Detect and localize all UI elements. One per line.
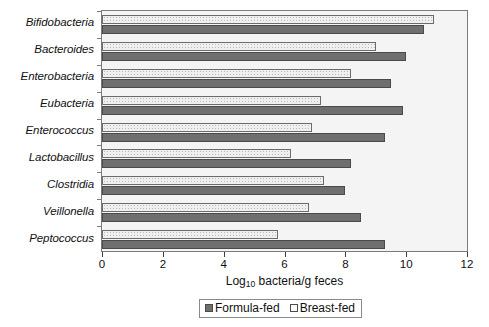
- category-label-bifidobacteria: Bifidobacteria: [0, 16, 94, 28]
- legend-item-breast-fed: Breast-fed: [290, 301, 355, 315]
- bar-formula-fed-bacteroides: [102, 52, 406, 61]
- legend-item-formula-fed: Formula-fed: [205, 301, 280, 315]
- x-tick: [285, 252, 286, 257]
- category-tick: [97, 145, 102, 146]
- category-axis: BifidobacteriaBacteroidesEnterobacteriaE…: [0, 10, 98, 252]
- bar-breast-fed-clostridia: [102, 176, 324, 185]
- legend-label-formula-fed: Formula-fed: [215, 301, 280, 315]
- category-label-enterobacteria: Enterobacteria: [0, 70, 94, 82]
- category-label-clostridia: Clostridia: [0, 178, 94, 190]
- x-tick: [163, 252, 164, 257]
- x-tick-label-4: 4: [209, 258, 239, 270]
- category-tick: [97, 38, 102, 39]
- category-label-bacteroides: Bacteroides: [0, 43, 94, 55]
- legend-label-breast-fed: Breast-fed: [300, 301, 355, 315]
- x-tick-label-0: 0: [87, 258, 117, 270]
- bar-breast-fed-bifidobacteria: [102, 15, 434, 24]
- x-tick-label-12: 12: [452, 258, 482, 270]
- bar-breast-fed-peptococcus: [102, 230, 278, 239]
- bar-formula-fed-eubacteria: [102, 106, 403, 115]
- bar-breast-fed-veillonella: [102, 203, 309, 212]
- x-tick: [102, 252, 103, 257]
- x-tick: [345, 252, 346, 257]
- category-label-eubacteria: Eubacteria: [0, 97, 94, 109]
- bar-breast-fed-enterobacteria: [102, 69, 351, 78]
- x-tick: [467, 252, 468, 257]
- bar-formula-fed-peptococcus: [102, 240, 385, 249]
- category-tick: [97, 92, 102, 93]
- legend-swatch-formula-fed-icon: [205, 304, 213, 312]
- bar-formula-fed-bifidobacteria: [102, 25, 424, 34]
- x-tick: [224, 252, 225, 257]
- bar-breast-fed-lactobacillus: [102, 149, 291, 158]
- category-tick: [97, 172, 102, 173]
- category-label-lactobacillus: Lactobacillus: [0, 151, 94, 163]
- bar-formula-fed-veillonella: [102, 213, 361, 222]
- x-tick-label-2: 2: [148, 258, 178, 270]
- category-tick: [97, 226, 102, 227]
- x-axis-title-base: Log: [226, 274, 246, 288]
- x-tick-label-8: 8: [330, 258, 360, 270]
- bar-formula-fed-clostridia: [102, 186, 345, 195]
- bar-formula-fed-enterococcus: [102, 133, 385, 142]
- bar-formula-fed-enterobacteria: [102, 79, 391, 88]
- bar-breast-fed-enterococcus: [102, 123, 312, 132]
- chart-legend: Formula-fed Breast-fed: [199, 299, 362, 318]
- category-tick: [97, 119, 102, 120]
- category-tick: [97, 11, 102, 12]
- x-axis-title: Log10 bacteria/g feces: [101, 274, 468, 288]
- bar-formula-fed-lactobacillus: [102, 159, 351, 168]
- bar-breast-fed-eubacteria: [102, 96, 321, 105]
- x-tick-label-10: 10: [391, 258, 421, 270]
- category-tick: [97, 199, 102, 200]
- bacteria-bar-chart: BifidobacteriaBacteroidesEnterobacteriaE…: [0, 0, 489, 327]
- category-label-enterococcus: Enterococcus: [0, 124, 94, 136]
- plot-area: [101, 10, 468, 252]
- x-axis-title-rest: bacteria/g feces: [255, 274, 343, 288]
- x-tick-label-6: 6: [270, 258, 300, 270]
- category-tick: [97, 65, 102, 66]
- legend-swatch-breast-fed-icon: [290, 304, 298, 312]
- category-label-peptococcus: Peptococcus: [0, 232, 94, 244]
- category-label-veillonella: Veillonella: [0, 205, 94, 217]
- x-tick: [406, 252, 407, 257]
- x-axis-title-subscript: 10: [246, 279, 255, 289]
- bar-breast-fed-bacteroides: [102, 42, 376, 51]
